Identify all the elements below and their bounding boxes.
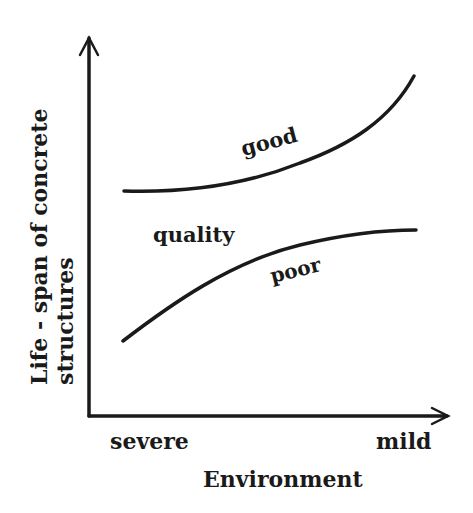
x-tick-severe: severe [110, 430, 189, 452]
y-axis-label-line2: structures [54, 257, 76, 385]
x-tick-mild: mild [376, 430, 431, 452]
legend-title-quality: quality [153, 224, 234, 245]
x-axis-label: Environment [203, 468, 363, 490]
y-axis-label-line1: Life - span of concrete [28, 109, 50, 385]
